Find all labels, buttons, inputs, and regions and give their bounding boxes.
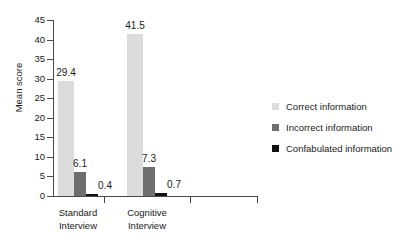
y-axis-line xyxy=(53,20,54,197)
y-tick xyxy=(47,137,53,138)
y-tick xyxy=(47,59,53,60)
x-tick xyxy=(257,197,258,203)
bar-value-label: 6.1 xyxy=(60,159,100,169)
y-tick-label: 10 xyxy=(3,152,45,162)
y-tick-label: 40 xyxy=(3,35,45,45)
y-tick-label: 0 xyxy=(3,191,45,201)
bar xyxy=(127,34,143,196)
y-tick xyxy=(47,157,53,158)
y-tick-label: 30 xyxy=(3,74,45,84)
bar-chart: Mean score 051015202530354045 StandardIn… xyxy=(0,0,412,245)
x-axis-line xyxy=(53,196,258,197)
bar-value-label: 0.4 xyxy=(85,181,125,191)
y-tick-label: 15 xyxy=(3,132,45,142)
legend-item: Incorrect information xyxy=(272,117,392,138)
y-tick xyxy=(47,98,53,99)
y-tick-label: 45 xyxy=(3,15,45,25)
legend-label: Confabulated information xyxy=(286,143,392,154)
x-group-label: StandardInterview xyxy=(38,206,118,232)
legend: Correct informationIncorrect information… xyxy=(272,96,392,159)
x-group-label-line: Cognitive xyxy=(107,206,187,219)
legend-label: Correct information xyxy=(286,101,367,112)
x-group-label-line: Interview xyxy=(38,219,118,232)
x-group-label: CognitiveInterview xyxy=(107,206,187,232)
x-tick xyxy=(190,197,191,203)
legend-item: Correct information xyxy=(272,96,392,117)
y-tick-label: 5 xyxy=(3,171,45,181)
bar-value-label: 41.5 xyxy=(115,21,155,31)
legend-label: Incorrect information xyxy=(286,122,373,133)
y-tick xyxy=(47,118,53,119)
bar-value-label: 29.4 xyxy=(46,68,86,78)
legend-swatch-icon xyxy=(272,145,279,152)
x-group-label-line: Interview xyxy=(107,219,187,232)
y-tick xyxy=(47,79,53,80)
y-tick-label: 20 xyxy=(3,113,45,123)
y-tick xyxy=(47,20,53,21)
legend-item: Confabulated information xyxy=(272,138,392,159)
y-tick xyxy=(47,176,53,177)
bar-value-label: 7.3 xyxy=(129,154,169,164)
bar-value-label: 0.7 xyxy=(154,180,194,190)
legend-swatch-icon xyxy=(272,124,279,131)
y-tick-label: 25 xyxy=(3,93,45,103)
x-tick xyxy=(104,197,105,203)
y-tick xyxy=(47,40,53,41)
y-tick-label: 35 xyxy=(3,54,45,64)
legend-swatch-icon xyxy=(272,103,279,110)
x-group-label-line: Standard xyxy=(38,206,118,219)
bar xyxy=(155,193,167,196)
bar xyxy=(86,194,98,196)
bar xyxy=(58,81,74,196)
